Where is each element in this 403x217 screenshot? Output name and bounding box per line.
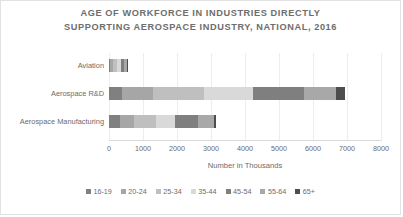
- chart-title-line-2: SUPPORTING AEROSPACE INDUSTRY, NATIONAL,…: [1, 21, 400, 35]
- bar-row[interactable]: Aviation: [109, 59, 128, 72]
- bar-segment[interactable]: [134, 115, 155, 128]
- category-label: Aerospace R&D: [51, 87, 104, 100]
- category-label: Aerospace Manufacturing: [20, 115, 104, 128]
- bar-segment[interactable]: [127, 59, 128, 72]
- legend-swatch-icon: [86, 189, 91, 194]
- chart-title: AGE OF WORKFORCE IN INDUSTRIES DIRECTLY …: [1, 7, 400, 34]
- x-axis-line: [109, 140, 381, 141]
- legend-item[interactable]: 55-64: [260, 187, 286, 196]
- bar-segment[interactable]: [253, 87, 304, 100]
- legend-item[interactable]: 45-54: [226, 187, 252, 196]
- legend-label: 16-19: [93, 187, 111, 196]
- chart-legend: 16-1920-2425-3435-4445-5455-6465+: [1, 187, 400, 196]
- gridline: [381, 53, 382, 141]
- bar-segment[interactable]: [109, 115, 120, 128]
- chart-title-line-1: AGE OF WORKFORCE IN INDUSTRIES DIRECTLY: [1, 7, 400, 21]
- x-tick-label: 4000: [237, 144, 253, 153]
- legend-label: 65+: [303, 187, 315, 196]
- gridline: [347, 53, 348, 141]
- legend-label: 25-34: [163, 187, 181, 196]
- category-label: Aviation: [78, 59, 104, 72]
- bar-segment[interactable]: [204, 87, 253, 100]
- bar-row[interactable]: Aerospace R&D: [109, 87, 345, 100]
- legend-item[interactable]: 35-44: [191, 187, 217, 196]
- legend-item[interactable]: 20-24: [121, 187, 147, 196]
- legend-item[interactable]: 65+: [295, 187, 315, 196]
- chart-container: AGE OF WORKFORCE IN INDUSTRIES DIRECTLY …: [0, 0, 401, 215]
- legend-swatch-icon: [295, 189, 300, 194]
- legend-swatch-icon: [226, 189, 231, 194]
- legend-label: 55-64: [268, 187, 286, 196]
- legend-swatch-icon: [121, 189, 126, 194]
- bar-row[interactable]: Aerospace Manufacturing: [109, 115, 216, 128]
- legend-label: 20-24: [128, 187, 146, 196]
- bar-segment[interactable]: [198, 115, 213, 128]
- legend-label: 35-44: [198, 187, 216, 196]
- legend-swatch-icon: [156, 189, 161, 194]
- x-tick-label: 3000: [203, 144, 219, 153]
- bar-segment[interactable]: [153, 87, 204, 100]
- plot-area: AviationAerospace R&DAerospace Manufactu…: [109, 53, 381, 141]
- bar-segment[interactable]: [304, 87, 336, 100]
- x-tick-label: 8000: [373, 144, 389, 153]
- x-tick-label: 1000: [135, 144, 151, 153]
- legend-label: 45-54: [233, 187, 251, 196]
- bar-segment[interactable]: [175, 115, 199, 128]
- bar-segment[interactable]: [214, 115, 216, 128]
- x-tick-label: 0: [107, 144, 111, 153]
- bar-segment[interactable]: [109, 87, 122, 100]
- legend-item[interactable]: 16-19: [86, 187, 112, 196]
- bar-segment[interactable]: [336, 87, 345, 100]
- x-axis-title: Number in Thousands: [109, 161, 381, 170]
- bar-segment[interactable]: [122, 87, 153, 100]
- legend-swatch-icon: [260, 189, 265, 194]
- legend-item[interactable]: 25-34: [156, 187, 182, 196]
- legend-swatch-icon: [191, 189, 196, 194]
- bar-segment[interactable]: [156, 115, 175, 128]
- x-tick-label: 6000: [305, 144, 321, 153]
- x-tick-label: 5000: [271, 144, 287, 153]
- x-tick-label: 7000: [339, 144, 355, 153]
- bar-segment[interactable]: [120, 115, 134, 128]
- x-tick-label: 2000: [169, 144, 185, 153]
